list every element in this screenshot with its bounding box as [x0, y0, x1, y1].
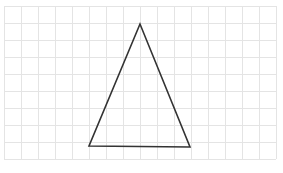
grid	[4, 6, 277, 160]
grid-triangle-diagram	[0, 0, 283, 173]
